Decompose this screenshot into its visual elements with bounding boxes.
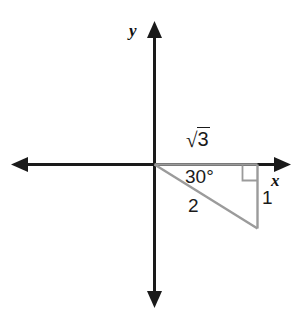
math-figure: y x √3 30° 2 1 — [0, 0, 299, 320]
hypotenuse-length-label: 2 — [188, 196, 199, 215]
x-axis-right-arrowhead — [274, 157, 291, 172]
right-angle-marker-icon — [243, 166, 258, 181]
x-axis-left-arrowhead — [11, 157, 28, 172]
coordinate-plane-svg — [0, 0, 299, 320]
radicand-value: 3 — [197, 127, 210, 150]
y-axis-label: y — [129, 22, 137, 39]
y-axis-bottom-arrowhead — [147, 291, 162, 308]
reference-angle-label: 30° — [185, 167, 214, 186]
adjacent-leg-length-label: √3 — [185, 129, 210, 150]
opposite-leg-length-label: 1 — [262, 188, 273, 207]
y-axis-top-arrowhead — [147, 21, 162, 38]
radical-sign-icon: √ — [186, 128, 198, 152]
